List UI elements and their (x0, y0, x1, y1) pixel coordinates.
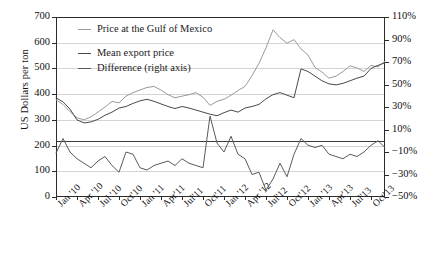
y-tick-label-right: 90% (392, 34, 438, 45)
legend-label-mean-export: Mean export price (97, 46, 174, 61)
y-tick-label-right: −50% (392, 191, 438, 202)
y-tick-mark-right (385, 40, 389, 41)
y-tick-label-right: −30% (392, 169, 438, 180)
legend-item-mean-export: Mean export price (78, 46, 212, 61)
y-tick-label-left: 300 (8, 114, 50, 125)
y-tick-label-right: −10% (392, 146, 438, 157)
y-tick-mark-right (385, 62, 389, 63)
series-line (56, 116, 385, 190)
chart-figure: US Dollars per ton 010020030040050060070… (0, 0, 442, 258)
y-tick-label-left: 400 (8, 88, 50, 99)
chart-legend: Price at the Gulf of Mexico Mean export … (78, 22, 212, 76)
y-tick-mark-right (385, 17, 389, 18)
legend-label-gulf-price: Price at the Gulf of Mexico (97, 22, 212, 37)
y-tick-label-right: 110% (392, 11, 438, 22)
legend-swatch-gulf-price (78, 29, 91, 30)
y-tick-label-right: 70% (392, 56, 438, 67)
legend-swatch-mean-export (78, 53, 91, 54)
y-tick-label-left: 700 (8, 11, 50, 22)
legend-swatch-difference (78, 68, 91, 69)
legend-item-difference: Difference (right axis) (78, 61, 212, 76)
y-tick-label-left: 0 (8, 191, 50, 202)
y-tick-label-right: 30% (392, 101, 438, 112)
legend-label-difference: Difference (right axis) (97, 61, 191, 76)
y-tick-label-left: 500 (8, 62, 50, 73)
y-tick-label-left: 600 (8, 37, 50, 48)
y-tick-label-right: 50% (392, 79, 438, 90)
y-tick-label-right: 10% (392, 124, 438, 135)
y-tick-label-left: 200 (8, 140, 50, 151)
y-tick-mark-right (385, 85, 389, 86)
y-tick-mark-right (385, 130, 389, 131)
y-tick-mark-right (385, 152, 389, 153)
y-tick-label-left: 100 (8, 165, 50, 176)
y-tick-mark-right (385, 175, 389, 176)
y-tick-mark-right (385, 107, 389, 108)
legend-item-gulf-price: Price at the Gulf of Mexico (78, 22, 212, 37)
